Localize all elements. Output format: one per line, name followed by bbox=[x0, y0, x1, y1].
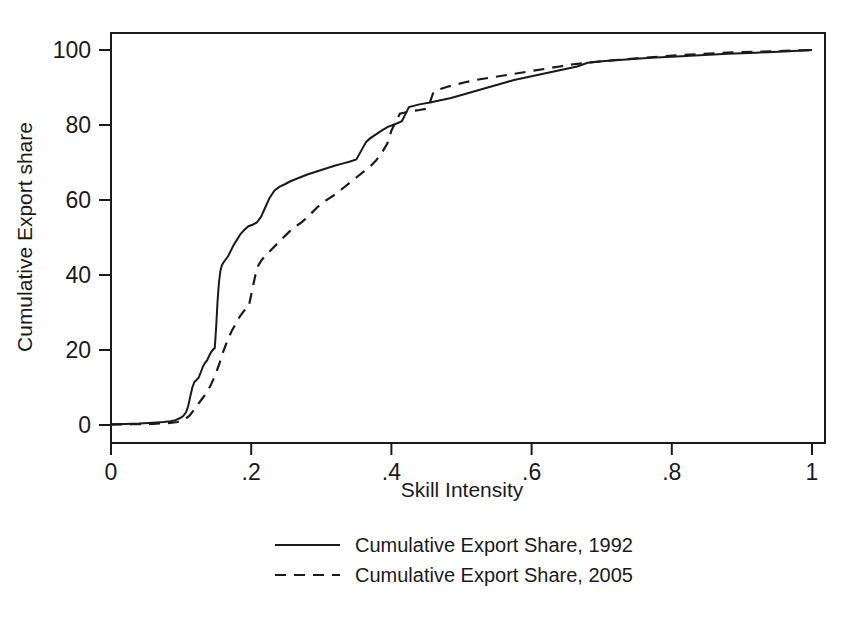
y-axis-title: Cumulative Export share bbox=[13, 122, 36, 352]
chart-canvas: 0.2.4.6.81 020406080100 Skill Intensity … bbox=[0, 0, 850, 617]
x-tick-label: .6 bbox=[522, 459, 541, 485]
y-tick-label: 80 bbox=[65, 112, 91, 138]
y-tick-label: 20 bbox=[65, 337, 91, 363]
x-tick-label: 0 bbox=[105, 459, 118, 485]
x-tick-label: .4 bbox=[382, 459, 401, 485]
y-tick-label: 0 bbox=[78, 412, 91, 438]
x-tick-label: 1 bbox=[806, 459, 819, 485]
y-tick-label: 40 bbox=[65, 262, 91, 288]
series-line-2 bbox=[111, 50, 812, 425]
chart-figure: 0.2.4.6.81 020406080100 Skill Intensity … bbox=[0, 0, 850, 617]
y-tick-label: 100 bbox=[53, 37, 91, 63]
x-axis-title: Skill Intensity bbox=[401, 478, 524, 501]
y-tick-label: 60 bbox=[65, 187, 91, 213]
x-tick-label: .2 bbox=[242, 459, 261, 485]
x-axis-ticks bbox=[111, 443, 812, 455]
y-axis-tick-labels: 020406080100 bbox=[53, 37, 91, 438]
data-series-group bbox=[111, 50, 812, 425]
plot-border bbox=[111, 33, 825, 443]
y-axis-ticks bbox=[99, 50, 111, 425]
series-line-1 bbox=[111, 50, 812, 424]
chart-legend: Cumulative Export Share, 1992Cumulative … bbox=[275, 534, 633, 586]
legend-label-1: Cumulative Export Share, 1992 bbox=[355, 534, 633, 556]
x-tick-label: .8 bbox=[662, 459, 681, 485]
legend-label-2: Cumulative Export Share, 2005 bbox=[355, 564, 633, 586]
plot-frame bbox=[111, 33, 825, 443]
